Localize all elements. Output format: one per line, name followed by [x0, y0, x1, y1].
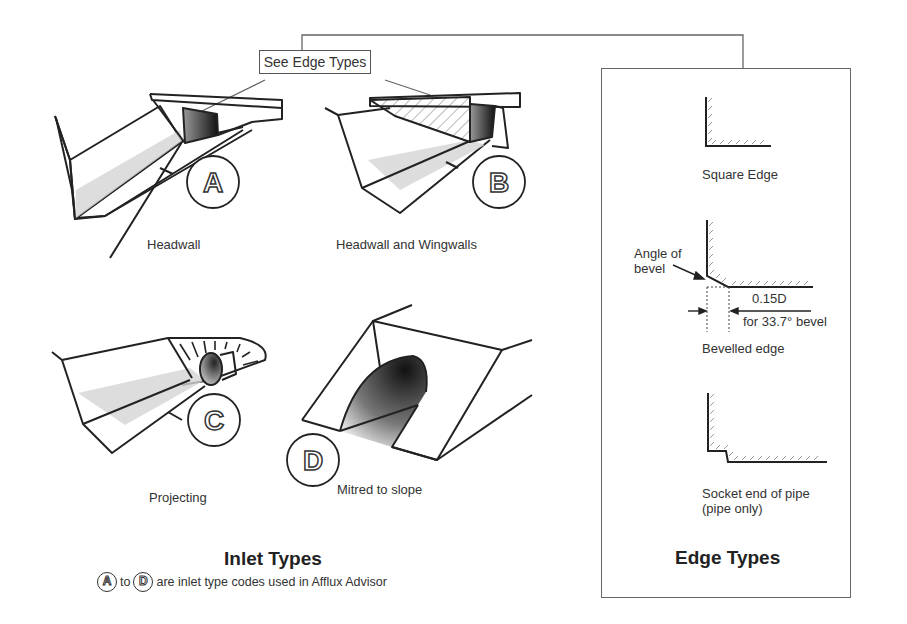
angle-of-bevel-label-1: Angle of	[634, 246, 682, 261]
badge-a: A	[187, 156, 239, 208]
note-text: are inlet type codes used in Afflux Advi…	[156, 575, 386, 589]
socket-end-label-1: Socket end of pipe	[702, 486, 810, 501]
bevelled-edge-label: Bevelled edge	[702, 341, 784, 356]
bevel-dimension-note: for 33.7° bevel	[743, 314, 827, 329]
svg-text:A: A	[203, 167, 223, 198]
socket-end-label-2: (pipe only)	[702, 501, 763, 516]
square-edge-label: Square Edge	[702, 167, 778, 182]
inlet-c-label: Projecting	[149, 490, 207, 505]
edge-types-title: Edge Types	[675, 547, 780, 569]
inlet-b-label: Headwall and Wingwalls	[336, 237, 477, 252]
badge-d: D	[287, 434, 339, 486]
inlet-code-badges: A B C D	[187, 156, 525, 486]
note-to-word: to	[120, 575, 130, 589]
inlet-a-label: Headwall	[147, 237, 200, 252]
svg-text:D: D	[303, 445, 323, 476]
inlet-a-headwall-drawing	[50, 94, 282, 280]
inlet-d-mitred-drawing	[302, 305, 532, 460]
bevel-dimension-label: 0.15D	[752, 291, 787, 306]
badge-c: C	[188, 394, 240, 446]
inlet-codes-note: A to D are inlet type codes used in Affl…	[97, 572, 387, 592]
note-badge-a: A	[97, 572, 117, 592]
svg-text:B: B	[489, 167, 509, 198]
inlet-d-label: Mitred to slope	[337, 482, 422, 497]
svg-text:C: C	[204, 405, 224, 436]
see-edge-types-callout: See Edge Types	[259, 50, 371, 74]
angle-of-bevel-label-2: bevel	[634, 261, 665, 276]
inlet-types-title: Inlet Types	[224, 548, 322, 570]
badge-b: B	[473, 156, 525, 208]
edge-types-panel	[601, 68, 851, 598]
note-badge-d: D	[133, 572, 153, 592]
